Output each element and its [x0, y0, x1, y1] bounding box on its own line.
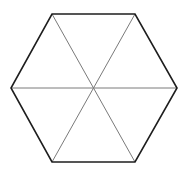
- hexagon-diagonals: [11, 14, 177, 162]
- hexagon-diagram: [0, 0, 188, 173]
